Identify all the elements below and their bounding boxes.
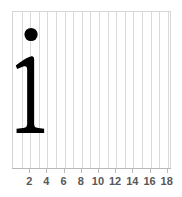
x-tick-mark [81,169,82,173]
letter-i-glyph [13,12,171,169]
letter-i-dot [24,28,37,41]
x-tick-label: 14 [126,175,138,188]
gridline [142,12,143,168]
x-tick-mark [29,169,30,173]
x-tick-label: 16 [143,175,155,188]
gridline [116,12,117,168]
chart-figure: 24681012141618 [0,0,182,197]
gridline [56,12,57,168]
gridline [30,12,31,168]
x-tick-label: 2 [26,175,32,188]
x-tick-label: 10 [92,175,104,188]
x-tick-mark [46,169,47,173]
x-tick-label: 12 [109,175,121,188]
gridline [39,12,40,168]
x-tick-mark [167,169,168,173]
gridline [125,12,126,168]
gridline [65,12,66,168]
x-tick-label: 4 [43,175,49,188]
plot-area [12,11,171,169]
x-tick-label: 18 [161,175,173,188]
x-tick-mark [115,169,116,173]
gridline [22,12,23,168]
gridline [90,12,91,168]
x-tick-mark [132,169,133,173]
gridline [133,12,134,168]
gridline [108,12,109,168]
x-axis-line [12,168,171,169]
x-tick-label: 6 [61,175,67,188]
gridline [168,12,169,168]
gridline [47,12,48,168]
x-tick-mark [98,169,99,173]
gridline [73,12,74,168]
x-tick-label: 8 [78,175,84,188]
gridline [99,12,100,168]
x-tick-mark [150,169,151,173]
x-tick-mark [64,169,65,173]
gridline [151,12,152,168]
gridline [82,12,83,168]
gridline [159,12,160,168]
